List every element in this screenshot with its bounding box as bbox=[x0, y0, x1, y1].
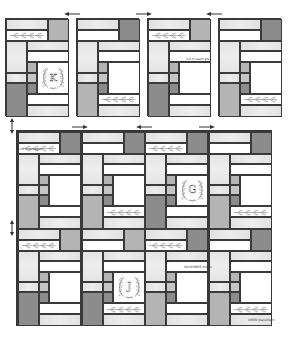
column-lower bbox=[209, 195, 230, 229]
strip-upper bbox=[240, 41, 282, 51]
small-square-3 bbox=[240, 83, 250, 94]
strip-upper-2 bbox=[103, 164, 145, 175]
center-square bbox=[113, 175, 145, 207]
small-square-2 bbox=[39, 282, 49, 292]
quilt-block-r1c3: G bbox=[144, 131, 208, 228]
small-square-3 bbox=[39, 292, 49, 303]
strip-top bbox=[18, 132, 60, 143]
column-upper bbox=[219, 41, 240, 73]
strip-second bbox=[148, 30, 190, 41]
column-lower bbox=[145, 195, 166, 229]
arrow-updown-icon bbox=[9, 118, 15, 134]
strip-lower bbox=[166, 303, 208, 314]
small-square-3 bbox=[230, 195, 240, 206]
quilt-block-r1c4 bbox=[208, 131, 272, 228]
column-lower bbox=[209, 292, 230, 326]
column-middle bbox=[82, 282, 103, 292]
strip-second bbox=[82, 143, 124, 154]
strip-second bbox=[6, 30, 48, 41]
strip-upper-2 bbox=[103, 261, 145, 272]
strip-second bbox=[209, 240, 251, 251]
wheat-motif-icon bbox=[101, 96, 136, 103]
corner-square bbox=[124, 229, 145, 251]
column-lower bbox=[219, 83, 240, 117]
svg-text:G: G bbox=[188, 184, 196, 195]
strip-upper bbox=[98, 41, 140, 51]
arrow-left-icon bbox=[64, 11, 80, 17]
column-middle bbox=[209, 282, 230, 292]
column-middle bbox=[18, 282, 39, 292]
block-4 bbox=[218, 18, 281, 116]
column-middle bbox=[77, 73, 98, 83]
wheat-motif-icon bbox=[148, 145, 183, 152]
strip-lower bbox=[39, 206, 81, 217]
small-square-1 bbox=[103, 175, 113, 186]
block-2 bbox=[76, 18, 139, 116]
strip-upper-2 bbox=[166, 164, 208, 175]
strip-second bbox=[145, 240, 187, 251]
wheat-motif-icon bbox=[21, 242, 56, 249]
corner-square bbox=[119, 19, 140, 41]
small-square-1 bbox=[230, 272, 240, 283]
small-square-2 bbox=[27, 73, 37, 83]
strip-upper-2 bbox=[230, 164, 272, 175]
strip-bottom bbox=[98, 105, 140, 117]
strip-lower bbox=[39, 303, 81, 314]
svg-text:K: K bbox=[49, 72, 57, 83]
corner-square bbox=[251, 132, 272, 154]
strip-lower bbox=[240, 94, 282, 105]
column-upper bbox=[145, 154, 166, 186]
column-upper bbox=[82, 154, 103, 186]
monogram-wreath-icon: G bbox=[179, 177, 206, 204]
small-square-2 bbox=[240, 73, 250, 83]
strip-upper bbox=[103, 154, 145, 164]
strip-top bbox=[219, 19, 261, 30]
strip-upper-2 bbox=[39, 164, 81, 175]
small-square-2 bbox=[169, 73, 179, 83]
strip-lower bbox=[103, 303, 145, 314]
center-square bbox=[49, 272, 81, 304]
strip-second bbox=[18, 240, 60, 251]
center-square bbox=[250, 62, 282, 94]
center-square bbox=[240, 175, 272, 207]
corner-square bbox=[124, 132, 145, 154]
corner-square bbox=[48, 19, 69, 41]
strip-top bbox=[82, 229, 124, 240]
arrow-right-icon bbox=[199, 124, 215, 130]
corner-square bbox=[60, 132, 81, 154]
strip-bottom bbox=[27, 105, 69, 117]
small-square-2 bbox=[166, 185, 176, 195]
quilt-block-r2c4 bbox=[208, 228, 272, 325]
arrow-left-icon bbox=[206, 11, 222, 17]
column-lower bbox=[6, 83, 27, 117]
center-square: K bbox=[37, 62, 69, 94]
corner-square bbox=[187, 132, 208, 154]
corner-square bbox=[187, 229, 208, 251]
small-square-2 bbox=[39, 185, 49, 195]
wheat-motif-icon bbox=[106, 306, 141, 313]
small-square-3 bbox=[169, 83, 179, 94]
column-upper bbox=[209, 154, 230, 186]
wheat-motif-icon bbox=[151, 32, 186, 39]
strip-second bbox=[209, 143, 251, 154]
arrow-right-icon bbox=[136, 11, 152, 17]
column-lower bbox=[148, 83, 169, 117]
strip-top bbox=[82, 132, 124, 143]
center-square bbox=[179, 62, 211, 94]
wheat-motif-icon bbox=[9, 32, 44, 39]
small-square-2 bbox=[230, 185, 240, 195]
column-upper bbox=[18, 154, 39, 186]
strip-lower bbox=[230, 206, 272, 217]
block3-label: 1/2 in seam grey bbox=[186, 57, 211, 61]
arrow-updown-icon bbox=[9, 220, 15, 236]
small-square-1 bbox=[103, 272, 113, 283]
corner-square bbox=[251, 229, 272, 251]
strip-top bbox=[6, 19, 48, 30]
strip-upper bbox=[103, 251, 145, 261]
quilt-block-r2c1 bbox=[17, 228, 81, 325]
strip-lower bbox=[169, 94, 211, 105]
strip-lower bbox=[27, 94, 69, 105]
small-square-1 bbox=[39, 272, 49, 283]
strip-second bbox=[219, 30, 261, 41]
center-square bbox=[240, 272, 272, 304]
